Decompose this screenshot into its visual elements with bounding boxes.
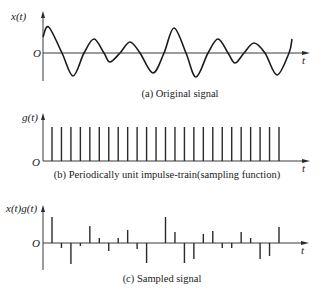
y-axis-label-a: x(t)	[10, 10, 27, 23]
panel-impulse-train: g(t) O t (b) Periodically unit impulse-t…	[22, 111, 310, 181]
panel-original-signal: x(t) O t (a) Original signal	[10, 10, 310, 100]
caption-b: (b) Periodically unit impulse-train(samp…	[54, 169, 281, 181]
y-axis-label-b: g(t)	[22, 111, 38, 124]
impulse-train-stems	[52, 127, 279, 161]
origin-label-c: O	[32, 237, 40, 249]
y-axis-arrow-icon	[41, 205, 45, 212]
caption-c: (c) Sampled signal	[123, 273, 202, 285]
sampling-figure: x(t) O t (a) Original signal g(t) O t (b…	[0, 0, 328, 299]
sampled-signal-stems	[52, 217, 279, 264]
origin-label-b: O	[32, 156, 40, 168]
panel-sampled-signal: x(t)g(t) O t (c) Sampled signal	[5, 202, 309, 285]
original-signal-curve	[43, 27, 292, 77]
y-axis-arrow-icon	[41, 11, 45, 18]
x-axis-label-c: t	[301, 244, 305, 256]
y-axis-arrow-icon	[41, 113, 45, 120]
y-axis-label-c: x(t)g(t)	[5, 202, 37, 215]
origin-label-a: O	[33, 47, 41, 59]
x-axis-label-b: t	[302, 162, 306, 174]
caption-a: (a) Original signal	[142, 88, 219, 100]
x-axis-label-a: t	[302, 54, 306, 66]
